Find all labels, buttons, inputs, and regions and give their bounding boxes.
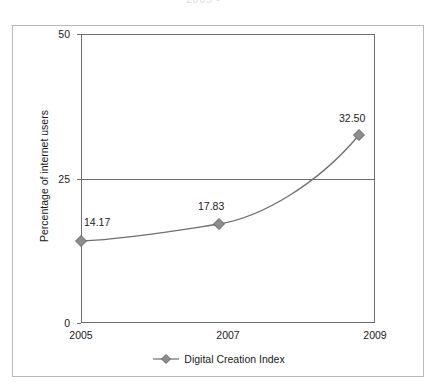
y-axis-tick-label: 50 [0, 29, 70, 40]
x-axis-tick-label: 2009 [345, 329, 405, 341]
chart-legend: Digital Creation Index [0, 352, 438, 368]
y-tick-mark-50 [77, 34, 81, 35]
diamond-marker-icon [153, 353, 179, 365]
y-tick-mark-25 [77, 179, 81, 180]
scan-artifact-text: 2005 - [186, 0, 246, 6]
y-axis-title-text: Percentage of internet users [37, 96, 51, 256]
legend-entry: Digital Creation Index [153, 352, 284, 366]
data-label-2007: 17.83 [198, 201, 224, 212]
y-axis-tick-label: 0 [0, 318, 70, 329]
y-axis-tick-label: 25 [0, 174, 70, 185]
legend-label: Digital Creation Index [184, 352, 284, 366]
y-tick-mark-0 [77, 323, 81, 324]
x-axis-tick-label: 2005 [51, 329, 111, 341]
y-axis-title: Percentage of internet users [37, 0, 51, 96]
scan-artifact-label: 2005 - [186, 0, 246, 5]
data-label-2009: 32.50 [339, 113, 365, 124]
data-label-2005: 14.17 [84, 217, 110, 228]
gridline-25 [81, 179, 375, 180]
x-axis-tick-label: 2007 [198, 329, 258, 341]
